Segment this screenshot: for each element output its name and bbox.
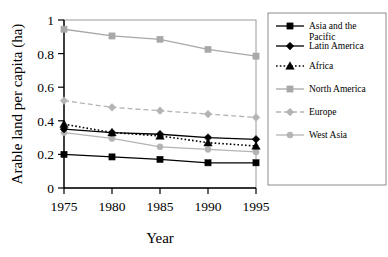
legend-label: Europe: [309, 107, 336, 117]
data-point: [157, 144, 163, 150]
y-axis-title: Arable land per capita (ha): [9, 24, 26, 185]
chart-legend: Asia and thePacificLatin AmericaAfricaNo…: [268, 13, 386, 185]
y-tick-label-0.6: 0.6: [37, 80, 54, 95]
x-tick-label-1975: 1975: [51, 199, 78, 214]
legend-label: North America: [309, 84, 367, 94]
data-point: [253, 160, 259, 166]
legend-label: Asia and the: [309, 21, 357, 31]
data-point: [157, 156, 163, 162]
data-point: [109, 154, 115, 160]
x-tick-label-1995: 1995: [243, 199, 270, 214]
x-tick-label-1985: 1985: [147, 199, 174, 214]
data-point: [109, 33, 115, 39]
x-tick-label-1980: 1980: [99, 199, 126, 214]
legend-label: Latin America: [309, 41, 364, 51]
data-point: [253, 53, 259, 59]
x-tick-label-1990: 1990: [195, 199, 222, 214]
data-point: [61, 151, 67, 157]
data-point: [205, 160, 211, 166]
y-tick-label-0.8: 0.8: [37, 47, 54, 62]
arable-land-line-chart: 0 0.2 0.4 0.6 0.8 1 1975 1980 1985 1990 …: [0, 0, 388, 257]
data-point: [157, 36, 163, 42]
data-point: [253, 149, 259, 155]
y-tick-label-0: 0: [47, 181, 54, 196]
y-tick-label-0.2: 0.2: [37, 147, 54, 162]
legend-label: Africa: [309, 61, 334, 71]
legend-marker-square-icon: [287, 86, 293, 92]
x-axis-title: Year: [146, 230, 174, 246]
y-tick-label-0.4: 0.4: [37, 114, 54, 129]
legend-marker-square-icon: [287, 23, 293, 29]
y-tick-label-1: 1: [47, 13, 54, 28]
data-point: [205, 46, 211, 52]
legend-marker-circle-icon: [287, 132, 293, 138]
data-point: [61, 26, 67, 32]
chart-figure: 0 0.2 0.4 0.6 0.8 1 1975 1980 1985 1990 …: [0, 0, 388, 257]
data-point: [205, 146, 211, 152]
legend-label: West Asia: [309, 130, 348, 140]
